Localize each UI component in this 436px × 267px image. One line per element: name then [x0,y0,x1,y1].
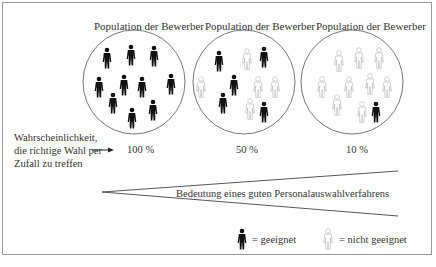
wedge-label: Bedeutung eines guten Personalauswahlver… [176,188,389,199]
probability-value-3: 10 % [346,144,368,155]
population-circle-2 [193,30,295,134]
probability-label: Wahrscheinlichkeit, die richtige Wahl pe… [14,131,102,170]
probability-value-2: 50 % [236,144,258,155]
probability-value-1: 100 % [127,144,154,155]
suitable-person-icons-group-3 [372,102,381,123]
unsuitable-person-icons-group-3 [318,48,392,123]
population-title-3: Population der Bewerber [316,20,426,32]
legend-unsuitable-label: = nicht geeignet [339,234,407,245]
probability-label-line-1: Wahrscheinlichkeit, [14,131,102,144]
probability-label-line-3: Zufall zu treffen [14,157,102,170]
legend-suitable-icon [238,229,247,250]
probability-label-line-2: die richtige Wahl per [14,144,102,157]
legend-unsuitable-icon [324,229,333,250]
legend-suitable-label: = geeignet [252,234,296,245]
population-title-2: Population der Bewerber [205,20,315,32]
suitable-person-icons-group-1 [95,45,176,129]
population-title-1: Population der Bewerber [94,20,204,32]
